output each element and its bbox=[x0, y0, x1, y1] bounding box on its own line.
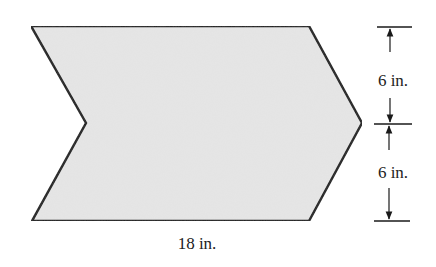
dimension-label-upper: 6 in. bbox=[378, 71, 408, 90]
chevron-diagram: 6 in. 6 in. 18 in. bbox=[0, 0, 436, 267]
chevron-shape bbox=[31, 26, 362, 221]
width-label: 18 in. bbox=[178, 234, 217, 253]
dimension-label-lower: 6 in. bbox=[378, 163, 408, 182]
